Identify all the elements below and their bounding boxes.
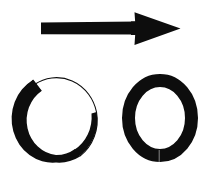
figure-canvas: A black right-pointing arrow drawn above… bbox=[0, 0, 218, 177]
arrow-joint bbox=[131, 21, 137, 35]
shape-transformation-figure bbox=[0, 0, 218, 177]
arrow-shaft bbox=[41, 22, 138, 35]
